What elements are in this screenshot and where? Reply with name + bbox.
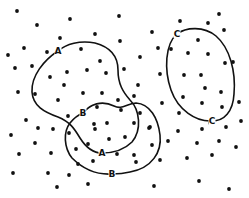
data-dot bbox=[217, 139, 221, 143]
data-dot bbox=[227, 187, 231, 191]
data-dot bbox=[46, 171, 50, 175]
data-dot bbox=[11, 171, 15, 175]
data-dot bbox=[134, 160, 138, 164]
data-dot bbox=[58, 36, 62, 40]
data-dot bbox=[196, 38, 200, 42]
data-dot bbox=[199, 73, 203, 77]
data-dot bbox=[48, 75, 52, 79]
data-dot bbox=[22, 46, 26, 50]
data-dot bbox=[166, 139, 170, 143]
data-dot bbox=[81, 91, 85, 95]
data-dot bbox=[156, 46, 160, 50]
data-dot bbox=[98, 59, 102, 63]
data-dot bbox=[123, 135, 127, 139]
data-dot bbox=[92, 122, 96, 126]
data-dot bbox=[158, 158, 162, 162]
region-c-label: C bbox=[174, 29, 181, 39]
data-dot bbox=[186, 51, 190, 55]
data-dot bbox=[116, 98, 120, 102]
data-dot bbox=[206, 21, 210, 25]
data-dot bbox=[169, 47, 173, 51]
data-dot bbox=[136, 83, 140, 87]
data-dot bbox=[56, 98, 60, 102]
data-dot bbox=[200, 127, 204, 131]
data-dot bbox=[118, 39, 122, 43]
data-dot bbox=[45, 50, 49, 54]
data-dot bbox=[237, 100, 241, 104]
data-dot bbox=[33, 92, 37, 96]
data-dot bbox=[182, 73, 186, 77]
region-a-outline bbox=[32, 42, 139, 153]
data-dot bbox=[13, 66, 17, 70]
data-dot bbox=[86, 142, 90, 146]
data-dot bbox=[138, 111, 142, 115]
data-dot bbox=[15, 9, 19, 13]
data-dot bbox=[86, 182, 90, 186]
region-curves bbox=[32, 29, 234, 174]
data-dot bbox=[74, 147, 78, 151]
data-dot bbox=[178, 19, 182, 23]
data-dot bbox=[132, 94, 136, 98]
data-dot bbox=[234, 145, 238, 149]
data-dot bbox=[107, 137, 111, 141]
data-dot bbox=[66, 114, 70, 118]
data-dot bbox=[197, 179, 201, 183]
data-dot bbox=[36, 126, 40, 130]
data-dot bbox=[79, 47, 83, 51]
data-dot bbox=[200, 101, 204, 105]
data-dot bbox=[16, 90, 20, 94]
region-a-label: A bbox=[99, 148, 106, 158]
data-dot bbox=[147, 126, 151, 130]
data-dot bbox=[150, 143, 154, 147]
data-dot bbox=[117, 14, 121, 18]
region-a-label: A bbox=[55, 46, 62, 56]
data-dot bbox=[132, 121, 136, 125]
data-dot bbox=[30, 64, 34, 68]
data-dot bbox=[206, 52, 210, 56]
data-dot bbox=[93, 32, 97, 36]
data-dot bbox=[93, 127, 97, 131]
data-dot bbox=[95, 105, 99, 109]
data-dot bbox=[122, 67, 126, 71]
data-dot bbox=[181, 95, 185, 99]
data-dot bbox=[35, 23, 39, 27]
data-dot bbox=[91, 159, 95, 163]
data-dot bbox=[62, 83, 66, 87]
region-c-label: C bbox=[209, 116, 216, 126]
data-dot bbox=[76, 162, 80, 166]
venn-dot-diagram: AABBCC bbox=[0, 0, 249, 198]
data-dot bbox=[100, 91, 104, 95]
data-dot bbox=[67, 173, 71, 177]
data-dot bbox=[6, 53, 10, 57]
data-dot bbox=[65, 70, 69, 74]
data-dot bbox=[185, 156, 189, 160]
data-dot bbox=[33, 141, 37, 145]
data-dot bbox=[177, 111, 181, 115]
data-dot bbox=[68, 17, 72, 21]
diagram-svg: AABBCC bbox=[0, 0, 249, 198]
data-dot bbox=[119, 108, 123, 112]
data-dot bbox=[220, 105, 224, 109]
data-dot bbox=[158, 72, 162, 76]
data-dot bbox=[17, 152, 21, 156]
data-dot bbox=[150, 30, 154, 34]
data-dot bbox=[9, 133, 13, 137]
data-dot bbox=[231, 60, 235, 64]
data-dot bbox=[138, 55, 142, 59]
data-dot bbox=[104, 71, 108, 75]
data-dot bbox=[217, 12, 221, 16]
data-dot bbox=[115, 152, 119, 156]
data-dot bbox=[176, 129, 180, 133]
data-dot bbox=[85, 68, 89, 72]
data-dot bbox=[132, 153, 136, 157]
data-dot bbox=[24, 118, 28, 122]
data-dot bbox=[239, 119, 243, 123]
data-dot bbox=[51, 127, 55, 131]
region-b-label: B bbox=[109, 169, 116, 179]
data-dot bbox=[203, 86, 207, 90]
data-dot bbox=[105, 121, 109, 125]
data-dot bbox=[222, 28, 226, 32]
data-dot bbox=[210, 153, 214, 157]
data-dot bbox=[219, 90, 223, 94]
data-dot bbox=[160, 101, 164, 105]
